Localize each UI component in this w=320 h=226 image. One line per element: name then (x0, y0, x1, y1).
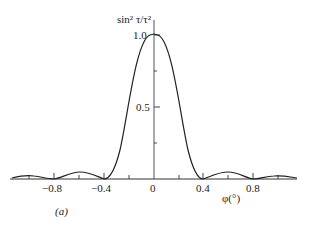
x-tick-label-0: 0 (150, 183, 156, 194)
y-tick-label-05: 0.5 (136, 102, 150, 113)
x-tick-label-08: 0.8 (246, 183, 260, 194)
panel-label: (a) (55, 206, 68, 217)
y-ticks (154, 35, 160, 143)
x-tick-label-m04: −0.4 (91, 183, 111, 194)
x-axis-label: φ(°) (222, 193, 240, 204)
x-tick-label-04: 0.4 (196, 183, 210, 194)
x-tick-label-m08: −0.8 (42, 183, 62, 194)
y-axis-label: sin² τ/τ² (117, 14, 151, 25)
y-tick-label-1: 1.0 (133, 30, 147, 41)
